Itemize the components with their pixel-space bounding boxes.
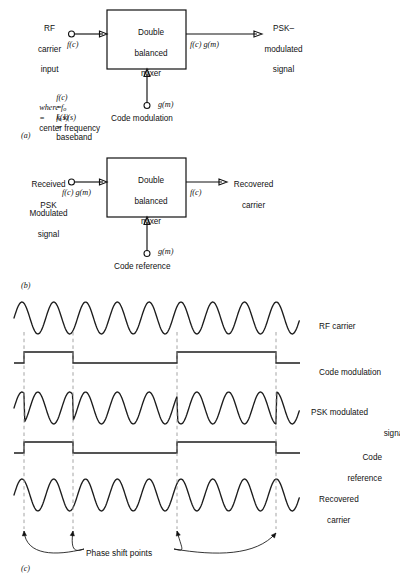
phase-shift-arrowhead-1 bbox=[22, 531, 26, 536]
waveform-label-recovered-carrier: Recovered carrier bbox=[310, 485, 359, 536]
waveform-psk-modulated-signal bbox=[14, 392, 299, 424]
waveform-recovered-carrier bbox=[14, 479, 299, 511]
phase-shift-arrow-4 bbox=[174, 533, 276, 553]
waveform-code-reference bbox=[14, 442, 300, 453]
waveform-rf-carrier bbox=[14, 302, 299, 334]
waveform-label-psk-modulated-signal: PSK modulated signal bbox=[302, 398, 396, 449]
waveform-label-code-modulation: Code modulation bbox=[310, 358, 381, 389]
phase-shift-points-annotation: Phase shift points bbox=[86, 548, 152, 558]
phase-shift-arrowhead-3 bbox=[176, 531, 180, 536]
phase-shift-arrowhead-2 bbox=[70, 531, 74, 536]
figure-psk-modulation: Double balanced mixer RF carrier input f… bbox=[0, 0, 400, 579]
waveform-code-modulation bbox=[14, 352, 300, 363]
panel-c-id: (c) bbox=[21, 564, 30, 573]
waveform-label-rf-carrier: RF carrier bbox=[310, 312, 356, 343]
